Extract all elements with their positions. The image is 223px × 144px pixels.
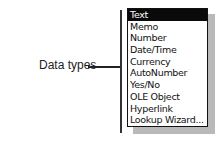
list-item-hyperlink[interactable]: Hyperlink xyxy=(128,103,207,115)
list-item-memo[interactable]: Memo xyxy=(128,21,207,33)
list-item-autonumber[interactable]: AutoNumber xyxy=(128,67,207,79)
list-item-text[interactable]: Text xyxy=(128,9,207,21)
list-item-ole-object[interactable]: OLE Object xyxy=(128,91,207,103)
callout-bracket-line xyxy=(120,10,122,133)
callout-connector-line xyxy=(88,66,122,68)
list-item-date-time[interactable]: Date/Time xyxy=(128,44,207,56)
list-item-currency[interactable]: Currency xyxy=(128,56,207,68)
data-type-dropdown-list[interactable]: Text Memo Number Date/Time Currency Auto… xyxy=(127,8,208,127)
list-item-yes-no[interactable]: Yes/No xyxy=(128,79,207,91)
list-item-number[interactable]: Number xyxy=(128,32,207,44)
data-types-label: Data types xyxy=(39,58,96,72)
list-item-lookup-wizard[interactable]: Lookup Wizard... xyxy=(128,114,207,126)
